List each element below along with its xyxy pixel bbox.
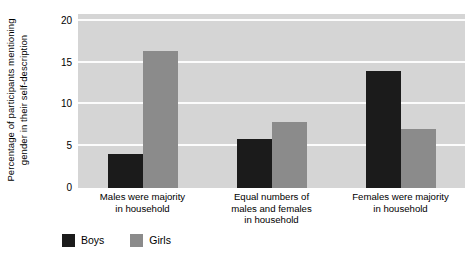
y-axis-tick-label: 0 [46,183,72,193]
legend-item-boys: Boys [62,234,104,247]
gridline [78,102,465,104]
legend-item-girls: Girls [130,234,171,247]
bar-girls-0 [143,51,178,188]
x-axis-category-labels: Males were majorityin householdEqual num… [78,191,465,237]
bar-girls-1 [272,122,307,188]
y-axis-title-line-1: Percentage of participants mentioning [6,18,16,181]
x-axis-category-label-line: Males were majority [78,191,207,203]
chart-legend: Boys Girls [62,233,171,247]
y-axis-title: Percentage of participants mentioning ge… [0,0,34,200]
plot-area [78,14,465,188]
y-axis-tick-label: 5 [46,141,72,151]
y-axis-tick-label: 15 [46,58,72,68]
y-axis-tick-labels: 05101520 [46,0,72,263]
y-axis-title-line-2: gender in their self-description [19,35,29,165]
x-axis-category-label: Males were majorityin household [78,191,207,214]
x-axis-category-label-line: Females were majority [336,191,465,203]
x-axis-category-label-line: in household [207,214,336,226]
legend-label-girls: Girls [149,235,171,246]
bar-girls-2 [401,129,436,188]
gridline [78,61,465,63]
y-axis-tick-label: 20 [46,16,72,26]
x-axis-category-label-line: males and females [207,203,336,215]
x-axis-category-label-line: in household [78,203,207,215]
legend-swatch-boys-icon [62,234,75,247]
x-axis-category-label: Females were majorityin household [336,191,465,214]
y-axis-tick-label: 10 [46,99,72,109]
bar-boys-1 [237,139,272,188]
legend-swatch-girls-icon [130,234,143,247]
x-axis-category-label-line: Equal numbers of [207,191,336,203]
gridline [78,19,465,21]
bar-boys-0 [108,154,143,188]
legend-label-boys: Boys [81,235,104,246]
x-axis-category-label-line: in household [336,203,465,215]
x-axis-category-label: Equal numbers ofmales and femalesin hous… [207,191,336,226]
bar-boys-2 [366,71,401,188]
